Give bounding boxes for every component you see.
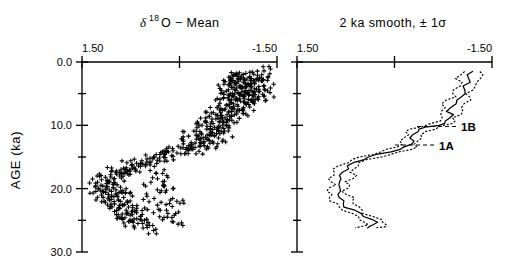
scatter-point: [260, 73, 264, 77]
scatter-point: [272, 95, 276, 99]
scatter-point: [261, 64, 265, 68]
scatter-point: [255, 69, 259, 73]
scatter-point: [115, 216, 119, 220]
y-label-0: 0.0: [57, 56, 72, 68]
right-panel-title: 2 ka smooth, ± 1σ: [340, 16, 447, 30]
scatter-point: [148, 168, 152, 172]
scatter-point: [148, 163, 152, 167]
scatter-point: [162, 159, 166, 163]
scatter-point: [248, 70, 252, 74]
left-x-label-min: 1.50: [82, 42, 103, 54]
scatter-point: [216, 136, 221, 141]
scatter-point: [154, 161, 158, 165]
scatter-point: [152, 196, 156, 200]
left-title-superscript: 18: [149, 13, 159, 23]
scatter-point: [150, 176, 154, 180]
smoothed-curves-group: [327, 72, 483, 228]
scatter-point: [157, 215, 161, 219]
scatter-point: [136, 221, 141, 226]
scatter-point: [265, 78, 269, 82]
scatter-point: [122, 179, 126, 183]
scatter-point: [151, 223, 155, 227]
scatter-point: [105, 165, 109, 169]
left-title-rest: − Mean: [175, 16, 219, 30]
scatter-series-d18o: [87, 64, 276, 236]
scatter-point: [154, 171, 158, 175]
scatter-point: [261, 84, 265, 88]
scatter-point: [135, 206, 139, 210]
scatter-point: [201, 152, 205, 156]
scatter-point: [155, 188, 159, 192]
y-label-10: 10.0: [51, 119, 72, 131]
scatter-point: [194, 152, 198, 156]
scatter-point: [121, 195, 126, 200]
scatter-point: [216, 142, 220, 146]
left-panel-title: δ 18 O − Mean: [140, 13, 219, 30]
scatter-point: [144, 192, 148, 196]
scatter-point: [138, 170, 142, 174]
scatter-point: [90, 177, 94, 181]
scatter-point: [230, 135, 234, 139]
scatter-point: [130, 194, 134, 198]
annotation-label-1B: 1B: [461, 121, 476, 133]
scatter-point: [151, 210, 156, 215]
scatter-point: [141, 226, 146, 231]
scatter-point: [143, 153, 147, 157]
scatter-point: [179, 152, 184, 157]
annotation-label-1A: 1A: [439, 140, 454, 152]
left-x-label-max: -1.50: [252, 42, 277, 54]
scatter-point: [135, 217, 139, 221]
right-panel-axes: 1.50 -1.50: [291, 42, 492, 252]
scatter-point: [155, 203, 160, 208]
y-axis-title: AGE (ka): [8, 131, 23, 189]
scatter-point: [257, 89, 261, 93]
scatter-point: [262, 69, 267, 74]
scatter-point: [155, 176, 159, 180]
scatter-point: [99, 200, 103, 204]
scatter-point: [118, 185, 122, 189]
scatter-point: [197, 149, 202, 154]
scatter-point: [241, 111, 245, 115]
left-title-element: O: [161, 16, 171, 30]
scatter-point: [109, 169, 113, 173]
scatter-point: [268, 86, 273, 91]
scatter-point: [146, 232, 150, 236]
right-x-label-max: -1.50: [467, 42, 492, 54]
scatter-point: [208, 105, 212, 109]
scatter-point: [232, 121, 237, 126]
curve-plus-1-sigma: [342, 72, 483, 228]
scatter-point: [205, 124, 209, 128]
scatter-point: [126, 205, 130, 209]
scatter-point: [141, 197, 145, 201]
scatter-point: [235, 120, 239, 124]
scatter-point: [171, 186, 175, 190]
scatter-point: [244, 71, 249, 76]
scatter-point: [230, 109, 234, 113]
scatter-point: [237, 116, 242, 121]
annotation-1A: 1A: [395, 140, 454, 152]
scatter-point: [170, 204, 174, 208]
scatter-point: [149, 180, 154, 185]
left-title-delta: δ: [140, 15, 147, 30]
scatter-point: [175, 151, 179, 155]
scatter-point: [120, 159, 124, 163]
scatter-point: [130, 213, 134, 217]
y-label-30: 30.0: [51, 246, 72, 258]
scatter-point: [247, 105, 252, 110]
scatter-point: [140, 208, 144, 212]
scatter-point: [147, 200, 151, 204]
scatter-point: [128, 191, 132, 195]
scatter-point: [271, 82, 275, 86]
scatter-point: [152, 164, 156, 168]
scatter-point: [194, 129, 198, 133]
scatter-point: [264, 98, 268, 102]
scatter-point: [198, 116, 202, 120]
scatter-point: [171, 220, 175, 224]
right-x-label-min: 1.50: [297, 42, 318, 54]
figure-root: δ 18 O − Mean 2 ka smooth, ± 1σ 1.50 -1.…: [0, 0, 509, 277]
scatter-point: [87, 181, 91, 185]
chart-canvas: δ 18 O − Mean 2 ka smooth, ± 1σ 1.50 -1.…: [0, 0, 509, 277]
scatter-point: [159, 200, 163, 204]
scatter-point: [145, 225, 149, 229]
y-label-20: 20.0: [51, 183, 72, 195]
